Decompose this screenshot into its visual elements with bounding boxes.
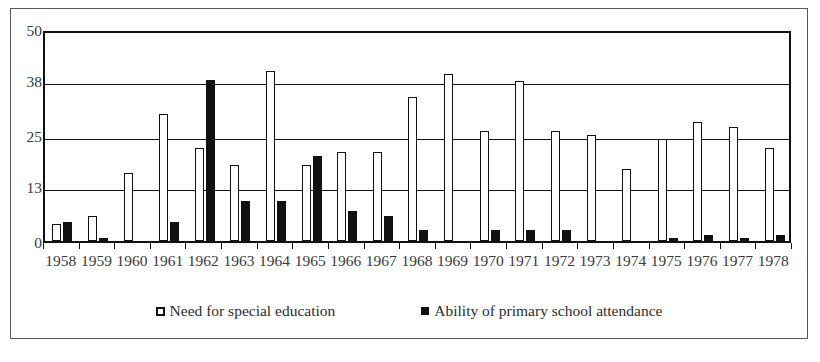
- bar-need-for-special-education: [658, 139, 667, 241]
- bar-group: [579, 33, 615, 241]
- legend-label: Need for special education: [170, 302, 336, 320]
- x-tick-label: 1969: [435, 252, 471, 271]
- x-tick: [328, 243, 329, 249]
- bar-group: [437, 33, 473, 241]
- y-tick-label: 25: [8, 129, 42, 145]
- bar-need-for-special-education: [480, 131, 489, 241]
- x-tick: [542, 243, 543, 249]
- bar-need-for-special-education: [408, 97, 417, 241]
- legend-label: Ability of primary school attendance: [434, 302, 662, 320]
- bar-ability-of-primary-school-attendance: [562, 230, 571, 241]
- bar-need-for-special-education: [444, 74, 453, 241]
- bar-group: [472, 33, 508, 241]
- bar-need-for-special-education: [337, 152, 346, 241]
- bar-need-for-special-education: [266, 71, 275, 241]
- bar-ability-of-primary-school-attendance: [704, 235, 713, 241]
- bar-need-for-special-education: [124, 173, 133, 241]
- bar-need-for-special-education: [515, 81, 524, 241]
- x-tick-label: 1973: [577, 252, 613, 271]
- x-tick: [649, 243, 650, 249]
- bar-group: [686, 33, 722, 241]
- hollow-square-marker-icon: [156, 307, 165, 316]
- x-tick: [43, 243, 44, 249]
- x-tick: [613, 243, 614, 249]
- bar-need-for-special-education: [587, 135, 596, 241]
- x-tick: [435, 243, 436, 249]
- x-tick-label: 1976: [684, 252, 720, 271]
- chart-legend: Need for special educationAbility of pri…: [10, 296, 808, 326]
- bar-ability-of-primary-school-attendance: [669, 238, 678, 241]
- bar-group: [294, 33, 330, 241]
- bar-ability-of-primary-school-attendance: [491, 230, 500, 241]
- bar-need-for-special-education: [373, 152, 382, 241]
- bar-ability-of-primary-school-attendance: [384, 216, 393, 241]
- bar-group: [45, 33, 81, 241]
- bar-ability-of-primary-school-attendance: [419, 230, 428, 241]
- bar-ability-of-primary-school-attendance: [348, 211, 357, 241]
- bar-need-for-special-education: [302, 165, 311, 241]
- x-tick: [114, 243, 115, 249]
- x-tick: [150, 243, 151, 249]
- bar-need-for-special-education: [230, 165, 239, 241]
- bar-group: [366, 33, 402, 241]
- bar-ability-of-primary-school-attendance: [776, 235, 785, 241]
- x-tick: [506, 243, 507, 249]
- bar-group: [223, 33, 259, 241]
- bar-ability-of-primary-school-attendance: [63, 222, 72, 241]
- x-tick-label: 1968: [399, 252, 435, 271]
- x-tick-label: 1963: [221, 252, 257, 271]
- bar-need-for-special-education: [52, 224, 61, 241]
- bar-ability-of-primary-school-attendance: [99, 238, 108, 241]
- x-tick-label: 1975: [649, 252, 685, 271]
- x-tick: [755, 243, 756, 249]
- bar-group: [152, 33, 188, 241]
- x-tick: [221, 243, 222, 249]
- bar-ability-of-primary-school-attendance: [313, 156, 322, 241]
- x-tick-label: 1962: [185, 252, 221, 271]
- x-tick-label: 1960: [114, 252, 150, 271]
- legend-item: Ability of primary school attendance: [421, 302, 662, 320]
- bar-group: [259, 33, 295, 241]
- bar-need-for-special-education: [551, 131, 560, 241]
- y-tick-label: 50: [8, 23, 42, 39]
- x-tick-label: 1966: [328, 252, 364, 271]
- bar-group: [722, 33, 758, 241]
- x-tick-label: 1978: [755, 252, 791, 271]
- x-tick-label: 1958: [43, 252, 79, 271]
- bar-group: [544, 33, 580, 241]
- bar-group: [187, 33, 223, 241]
- x-tick-label: 1971: [506, 252, 542, 271]
- x-tick-label: 1959: [79, 252, 115, 271]
- bar-group: [116, 33, 152, 241]
- x-tick-label: 1961: [150, 252, 186, 271]
- bar-group: [651, 33, 687, 241]
- bar-ability-of-primary-school-attendance: [241, 201, 250, 241]
- chart-figure: 013253850 195819591960196119621963196419…: [0, 0, 820, 362]
- x-tick: [79, 243, 80, 249]
- bar-group: [330, 33, 366, 241]
- plot-area: [43, 31, 791, 243]
- bar-ability-of-primary-school-attendance: [277, 201, 286, 241]
- bar-need-for-special-education: [765, 148, 774, 241]
- bar-need-for-special-education: [88, 216, 97, 241]
- y-tick-label: 0: [8, 235, 42, 251]
- x-tick-label: 1964: [257, 252, 293, 271]
- x-tick: [720, 243, 721, 249]
- bar-ability-of-primary-school-attendance: [206, 80, 215, 241]
- x-tick: [292, 243, 293, 249]
- x-tick-label: 1977: [720, 252, 756, 271]
- bar-need-for-special-education: [693, 122, 702, 241]
- x-tick-label: 1972: [542, 252, 578, 271]
- x-tick: [470, 243, 471, 249]
- x-tick: [577, 243, 578, 249]
- bar-ability-of-primary-school-attendance: [526, 230, 535, 241]
- x-tick: [185, 243, 186, 249]
- bar-group: [508, 33, 544, 241]
- x-tick: [791, 243, 792, 249]
- bar-need-for-special-education: [729, 127, 738, 241]
- bar-need-for-special-education: [159, 114, 168, 241]
- x-tick-label: 1970: [470, 252, 506, 271]
- bar-need-for-special-education: [622, 169, 631, 241]
- bars-layer: [45, 33, 789, 241]
- x-tick: [399, 243, 400, 249]
